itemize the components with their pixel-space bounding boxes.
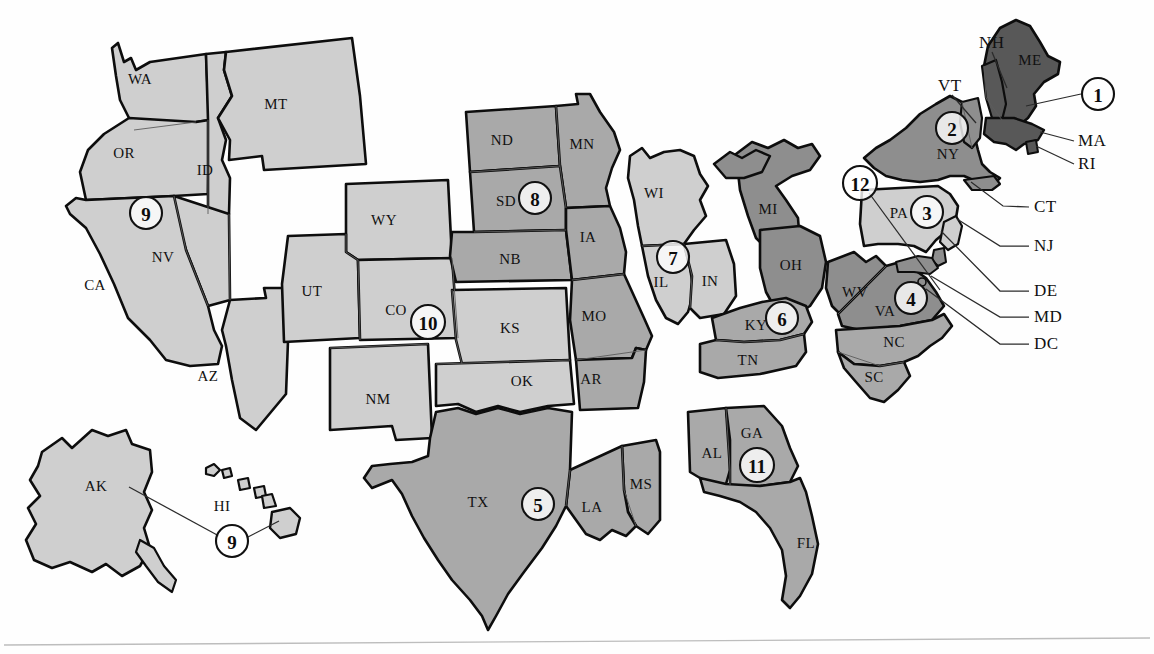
callout-label-DE: DE [1034, 281, 1057, 300]
district-badge-9b[interactable]: 9 [216, 525, 248, 557]
state-label-WY: WY [371, 212, 397, 228]
district-number-9b: 9 [227, 532, 237, 553]
callout-label-RI: RI [1078, 154, 1096, 173]
state-label-CO: CO [385, 302, 407, 318]
callout-leader-MA [1040, 132, 1074, 141]
us-federal-reserve-districts-map: WAMTORIDNVCAAZWYUTCONMNDMNSDNBIAKSOKMOAR… [0, 0, 1154, 654]
state-label-CA: CA [84, 277, 106, 293]
district-badge-7[interactable]: 7 [657, 241, 689, 273]
state-label-AZ: AZ [198, 368, 219, 384]
callout-label-MD: MD [1034, 307, 1062, 326]
callout-label-NH: NH [979, 33, 1004, 52]
region-district7 [628, 148, 736, 324]
district-number-2: 2 [947, 119, 957, 140]
state-shape-MT[interactable] [218, 38, 366, 170]
district-number-10: 10 [419, 313, 438, 334]
state-shape-AZ[interactable] [222, 288, 290, 430]
district-number-8: 8 [530, 189, 540, 210]
state-label-MT: MT [264, 96, 287, 112]
state-label-WV: WV [842, 284, 868, 300]
state-label-AR: AR [580, 371, 602, 387]
district-badge-4[interactable]: 4 [895, 282, 927, 314]
state-shape-AK-panhandle[interactable] [136, 540, 176, 592]
state-shape-RI[interactable] [1026, 140, 1038, 154]
callout-label-VT: VT [938, 76, 962, 95]
state-label-MI: MI [758, 201, 777, 217]
district-badge-6[interactable]: 6 [766, 302, 798, 334]
state-label-IA: IA [580, 229, 597, 245]
state-label-UT: UT [302, 283, 323, 299]
state-shape-WY[interactable] [346, 180, 452, 260]
state-label-TX: TX [468, 494, 489, 510]
state-label-NV: NV [152, 249, 174, 265]
state-label-ID: ID [197, 162, 214, 178]
state-shape-OK[interactable] [436, 360, 574, 412]
callout-label-MA: MA [1078, 131, 1107, 150]
state-label-NM: NM [366, 391, 391, 407]
state-label-OK: OK [511, 373, 533, 389]
district-number-3: 3 [922, 203, 932, 224]
district-badge-3[interactable]: 3 [911, 196, 943, 228]
state-label-OH: OH [780, 257, 802, 273]
district-number-12: 12 [851, 174, 870, 195]
state-label-VA: VA [875, 303, 896, 319]
state-label-SD: SD [496, 193, 516, 209]
district-badge-1[interactable]: 1 [1082, 78, 1114, 110]
state-label-NB: NB [499, 251, 521, 267]
state-label-LA: LA [582, 499, 603, 515]
district-number-11: 11 [748, 456, 766, 477]
callout-label-DC: DC [1034, 334, 1058, 353]
state-label-MN: MN [570, 136, 595, 152]
state-label-SC: SC [864, 369, 883, 385]
state-label-WA: WA [128, 71, 152, 87]
state-label-HI: HI [214, 498, 231, 514]
district-number-5: 5 [533, 495, 543, 516]
state-shape-WI[interactable] [628, 148, 708, 246]
state-label-MS: MS [630, 476, 652, 492]
region-district6 [364, 298, 952, 630]
callout-label-NJ: NJ [1034, 236, 1054, 255]
state-label-TN: TN [738, 352, 759, 368]
state-shape-OR[interactable] [80, 118, 209, 200]
state-label-WI: WI [644, 185, 664, 201]
district-badge-2[interactable]: 2 [936, 112, 968, 144]
state-label-MO: MO [582, 308, 607, 324]
district-number-6: 6 [777, 309, 787, 330]
state-label-AK: AK [85, 478, 107, 494]
district-badge-9[interactable]: 9 [130, 197, 162, 229]
district-badge-5[interactable]: 5 [522, 488, 554, 520]
state-label-OR: OR [113, 145, 135, 161]
state-label-AL: AL [702, 445, 723, 461]
district-number-7: 7 [668, 248, 678, 269]
state-label-GA: GA [741, 425, 763, 441]
district-number-4: 4 [906, 289, 916, 310]
district-badge-12[interactable]: 12 [843, 166, 877, 200]
callout-leader-NJ [957, 219, 1029, 246]
district-badge-10[interactable]: 10 [411, 305, 445, 339]
callout-leader-MD [931, 276, 1029, 317]
state-shape-AK[interactable] [26, 430, 152, 576]
callout-leader-RI [1036, 146, 1074, 164]
district-badge-8[interactable]: 8 [519, 182, 551, 214]
state-label-ND: ND [491, 132, 513, 148]
state-label-PA: PA [890, 205, 909, 221]
callout-label-CT: CT [1034, 197, 1057, 216]
state-label-IL: IL [654, 274, 669, 290]
footer-divider [4, 638, 1150, 645]
state-label-IN: IN [702, 273, 719, 289]
district-number-1: 1 [1093, 85, 1103, 106]
state-label-KS: KS [500, 320, 520, 336]
district-badge-11[interactable]: 11 [740, 448, 774, 482]
state-label-NC: NC [883, 334, 905, 350]
map-canvas: WAMTORIDNVCAAZWYUTCONMNDMNSDNBIAKSOKMOAR… [0, 0, 1154, 654]
state-label-ME: ME [1018, 52, 1041, 68]
district-number-9: 9 [141, 204, 151, 225]
state-label-FL: FL [797, 535, 815, 551]
state-label-KY: KY [745, 317, 767, 333]
state-shape-WA[interactable] [112, 43, 209, 130]
state-label-NY: NY [937, 146, 959, 162]
